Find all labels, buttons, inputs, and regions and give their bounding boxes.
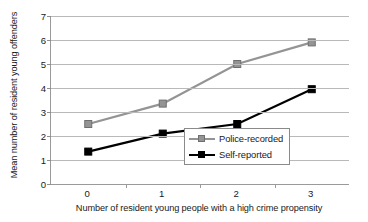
- gridline: [51, 16, 349, 17]
- legend-item: Self-reported: [189, 148, 283, 161]
- y-axis-tick-label: 1: [26, 155, 46, 166]
- y-axis-tick-label: 6: [26, 35, 46, 46]
- x-axis-tick-label: 1: [142, 188, 182, 199]
- y-axis-tick-mark: [47, 64, 51, 65]
- data-point-marker: [308, 86, 315, 93]
- legend-label: Police-recorded: [219, 133, 283, 144]
- legend-swatch-icon: [189, 150, 215, 159]
- legend-marker-icon: [198, 151, 205, 158]
- y-axis-tick-label: 4: [26, 83, 46, 94]
- legend-marker-icon: [198, 135, 205, 142]
- legend-swatch-icon: [189, 134, 215, 143]
- y-axis-tick-label: 7: [26, 11, 46, 22]
- gridline: [51, 64, 349, 65]
- x-axis-tick-labels: 0123: [50, 188, 348, 202]
- y-axis-tick-label: 5: [26, 59, 46, 70]
- gridline: [51, 40, 349, 41]
- y-axis-tick-labels: 01234567: [26, 0, 46, 222]
- data-point-marker: [234, 121, 241, 128]
- x-axis-tick-label: 3: [291, 188, 331, 199]
- y-axis-tick-mark: [47, 40, 51, 41]
- y-axis-tick-mark: [47, 112, 51, 113]
- data-point-marker: [85, 148, 92, 155]
- y-axis-tick-label: 3: [26, 107, 46, 118]
- gridline: [51, 88, 349, 89]
- y-axis-tick-mark: [47, 160, 51, 161]
- y-axis-tick-label: 2: [26, 131, 46, 142]
- data-point-marker: [159, 100, 166, 107]
- x-axis-tick-label: 2: [216, 188, 256, 199]
- y-axis-title: Mean number of resident young offenders: [7, 2, 21, 188]
- chart-legend: Police-recordedSelf-reported: [184, 128, 290, 165]
- data-point-marker: [85, 121, 92, 128]
- legend-label: Self-reported: [219, 149, 272, 160]
- y-axis-tick-mark: [47, 136, 51, 137]
- line-chart: Mean number of resident young offenders …: [0, 0, 368, 222]
- gridline: [51, 112, 349, 113]
- y-axis-tick-mark: [47, 184, 51, 185]
- y-axis-tick-mark: [47, 88, 51, 89]
- y-axis-tick-mark: [47, 16, 51, 17]
- x-axis-title: Number of resident young people with a h…: [50, 203, 348, 213]
- y-axis-tick-label: 0: [26, 179, 46, 190]
- legend-item: Police-recorded: [189, 132, 283, 145]
- x-axis-tick-label: 0: [67, 188, 107, 199]
